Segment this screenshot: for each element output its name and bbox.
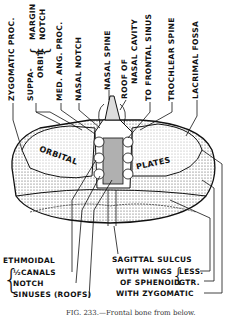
label-notch: NOTCH: [39, 9, 47, 40]
brace-icon: {: [37, 47, 51, 56]
label-med-ang-proc: MED. ANG. PROC.: [56, 22, 64, 101]
label-nasal-spine: NASAL SPINE: [104, 30, 112, 90]
label-with-wings: WITH WINGS: [116, 268, 172, 276]
label-to-frontal-sinus: TO FRONTAL SINUS: [145, 14, 153, 101]
label-roof-of: ROOF OF: [121, 59, 129, 99]
label-half-canals: ½CANALS: [13, 269, 56, 277]
label-less: LESS.: [179, 268, 203, 276]
label-gtr: GTR.: [179, 279, 200, 287]
label-with-zygomatic: WITH ZYGOMATIC: [116, 290, 194, 298]
label-sinuses-roofs: SINUSES (ROOFS): [13, 291, 91, 299]
label-lacrimal-fossa: LACRIMAL FOSSA: [192, 21, 200, 99]
label-nasal-cavity: NASAL CAVITY: [131, 19, 139, 84]
figure-caption: FIG. 233.—Frontal bone from below.: [66, 309, 195, 317]
label-zygomatic-proc: ZYGOMATIC PROC.: [8, 17, 16, 101]
label-notch-bottom: NOTCH: [13, 280, 44, 288]
label-nasal-notch: NASAL NOTCH: [75, 37, 83, 101]
label-suppa: SUPPA-: [27, 68, 35, 101]
label-trochlear-spine: TROCHLEAR SPINE: [168, 17, 176, 101]
label-margin: MARGIN: [29, 4, 37, 41]
